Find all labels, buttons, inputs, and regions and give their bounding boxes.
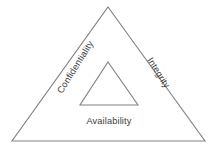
- inner-triangle: [80, 62, 138, 105]
- triad-canvas: Confidentiality Integrity Availability: [0, 0, 218, 151]
- cia-triad-diagram: Confidentiality Integrity Availability: [0, 0, 218, 151]
- confidentiality-label: Confidentiality: [55, 39, 95, 95]
- integrity-label: Integrity: [145, 56, 172, 90]
- availability-label: Availability: [86, 116, 131, 126]
